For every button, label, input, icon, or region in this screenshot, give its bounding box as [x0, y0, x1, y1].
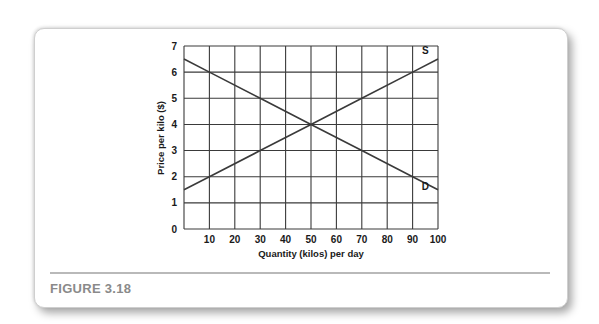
x-axis-label: Quantity (kilos) per day [258, 248, 364, 259]
x-tick-label: 90 [407, 234, 419, 245]
supply-demand-chart: 01234567 102030405060708090100 SD Quanti… [0, 0, 599, 324]
y-tick-label: 3 [171, 145, 177, 156]
x-tick-label: 100 [430, 234, 447, 245]
x-tick-label: 70 [356, 234, 368, 245]
y-tick-label: 4 [171, 119, 177, 130]
figure-label: FIGURE 3.18 [50, 281, 131, 296]
x-axis-ticks: 102030405060708090100 [204, 234, 447, 245]
x-tick-label: 30 [255, 234, 267, 245]
x-tick-label: 60 [331, 234, 343, 245]
x-tick-label: 40 [280, 234, 292, 245]
y-tick-label: 5 [171, 93, 177, 104]
y-axis-ticks: 01234567 [171, 41, 177, 235]
demand-label: D [422, 181, 429, 192]
x-tick-label: 20 [229, 234, 241, 245]
y-tick-label: 7 [171, 41, 177, 52]
x-tick-label: 10 [204, 234, 216, 245]
x-tick-label: 80 [382, 234, 394, 245]
y-tick-label: 0 [171, 224, 177, 235]
y-tick-label: 2 [171, 171, 177, 182]
supply-label: S [422, 45, 429, 56]
chart-grid [184, 46, 438, 229]
figure-divider [50, 272, 550, 274]
y-axis-label: Price per kilo ($) [155, 101, 166, 175]
x-tick-label: 50 [305, 234, 317, 245]
y-tick-label: 6 [171, 67, 177, 78]
y-tick-label: 1 [171, 197, 177, 208]
